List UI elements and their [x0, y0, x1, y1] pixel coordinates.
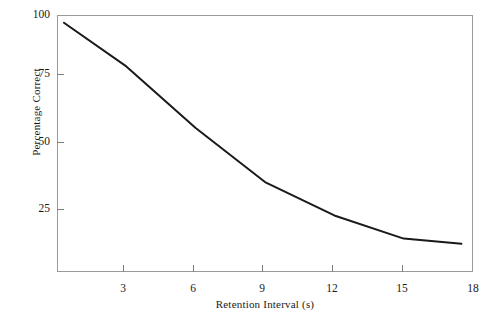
x-tick-mark-6 — [193, 265, 194, 272]
x-tick-label-9: 9 — [247, 283, 277, 295]
x-tick-label-6: 6 — [178, 283, 208, 295]
x-tick-label-12: 12 — [317, 283, 347, 295]
x-tick-label-18: 18 — [458, 283, 488, 295]
data-line-percentage-correct — [64, 23, 462, 244]
x-axis-title: Retention Interval (s) — [57, 298, 473, 310]
forgetting-curve-chart: 100 75 50 25 3 6 9 12 15 18 Percentage C… — [0, 0, 490, 326]
y-tick-mark-25 — [57, 209, 64, 210]
y-tick-label-100: 100 — [10, 9, 50, 21]
x-tick-label-15: 15 — [387, 283, 417, 295]
x-tick-label-3: 3 — [108, 283, 138, 295]
y-tick-label-25: 25 — [10, 203, 50, 215]
plot-area — [57, 15, 473, 272]
y-tick-mark-75 — [57, 74, 64, 75]
x-tick-mark-12 — [332, 265, 333, 272]
x-tick-mark-15 — [402, 265, 403, 272]
x-tick-mark-3 — [123, 265, 124, 272]
y-axis-title: Percentage Correct — [30, 32, 42, 192]
y-axis-ticks: 100 75 50 25 — [0, 0, 50, 326]
x-tick-mark-9 — [262, 265, 263, 272]
y-tick-mark-50 — [57, 142, 64, 143]
